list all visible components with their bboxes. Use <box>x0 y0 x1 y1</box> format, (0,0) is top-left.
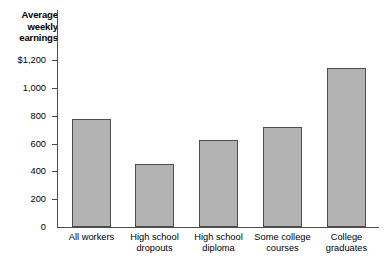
bar <box>327 68 366 227</box>
y-tick-label: 800 <box>0 111 46 121</box>
x-axis-line <box>57 227 379 228</box>
bar-chart: All workers Average weekly earnings 0200… <box>0 0 386 264</box>
y-tick-mark <box>52 88 58 89</box>
bar <box>72 119 111 227</box>
plot-area: 02004006008001,000$1,200 All workersHigh… <box>57 10 379 227</box>
y-tick-mark <box>52 60 58 61</box>
y-axis-title: All workers Average weekly earnings <box>0 9 58 44</box>
x-category-label: All workers <box>60 232 124 243</box>
y-tick-mark <box>52 199 58 200</box>
y-tick-mark <box>52 116 58 117</box>
x-category-label: High school diploma <box>187 232 251 254</box>
y-tick-label: 600 <box>0 139 46 149</box>
bar <box>135 164 174 227</box>
x-category-label: Some college courses <box>251 232 315 254</box>
x-category-label: High school dropouts <box>123 232 187 254</box>
y-tick-label-zero: 0 <box>0 222 46 232</box>
bar <box>263 127 302 227</box>
y-axis-title-text: Average weekly earnings <box>19 9 58 43</box>
x-category-label: College graduates <box>315 232 379 254</box>
y-tick-mark <box>52 171 58 172</box>
y-tick-label: 200 <box>0 194 46 204</box>
y-tick-label: 1,000 <box>0 83 46 93</box>
bar <box>199 140 238 227</box>
y-tick-label: $1,200 <box>0 55 46 65</box>
y-tick-label: 400 <box>0 166 46 176</box>
y-tick-mark <box>52 144 58 145</box>
y-axis-line <box>57 10 58 228</box>
